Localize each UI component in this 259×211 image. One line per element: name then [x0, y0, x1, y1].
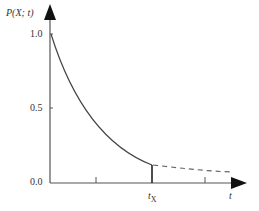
- x-axis-arrow-icon: [231, 177, 247, 189]
- tx-label: tX: [148, 190, 157, 204]
- y-tick-label-0: 0.0: [30, 176, 43, 187]
- decay-curve: [51, 34, 152, 165]
- y-axis-arrow-icon: [44, 4, 56, 20]
- x-axis-label: t: [229, 190, 232, 201]
- y-tick-label-1: 1.0: [30, 28, 43, 39]
- y-axis-label: P(X; t): [6, 7, 34, 18]
- dashed-continuation: [153, 165, 231, 172]
- y-tick-label-05: 0.5: [30, 102, 43, 113]
- tx-label-sub: X: [151, 195, 157, 204]
